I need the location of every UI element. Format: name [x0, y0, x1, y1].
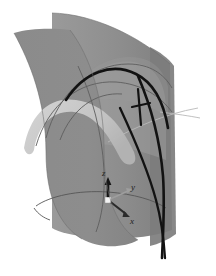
x-axis-label: x — [129, 216, 134, 226]
figure-container: z y x — [0, 0, 216, 276]
y-axis-label: y — [130, 182, 135, 192]
three-d-surface-figure: z y x — [0, 0, 216, 276]
